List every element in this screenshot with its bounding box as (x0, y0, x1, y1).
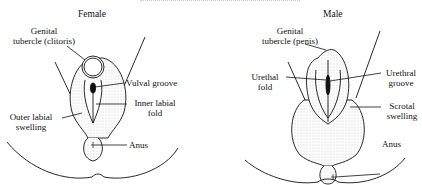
male-figure (245, 31, 405, 184)
female-panel-title: Female (78, 9, 106, 19)
label-outer-labial-swelling: Outer labial swelling (2, 112, 60, 132)
label-urethal-fold: Urethal fold (246, 72, 284, 92)
label-genital-tubercle-clitoris: Genital tubercle (clitoris) (4, 26, 84, 46)
label-genital-tubercle-penis: Genital tubercle (penis) (250, 26, 330, 46)
male-panel-title: Male (323, 9, 343, 19)
label-inner-labial-fold: Inner labial fold (128, 98, 182, 118)
label-scrotal-swelling: Scrotal swelling (382, 101, 422, 121)
label-anus-male: Anus (382, 139, 401, 149)
label-vulval-groove: Vulval groove (126, 78, 177, 88)
label-urethral-groove: Urethral groove (381, 68, 421, 88)
label-anus-female: Anus (129, 140, 148, 150)
